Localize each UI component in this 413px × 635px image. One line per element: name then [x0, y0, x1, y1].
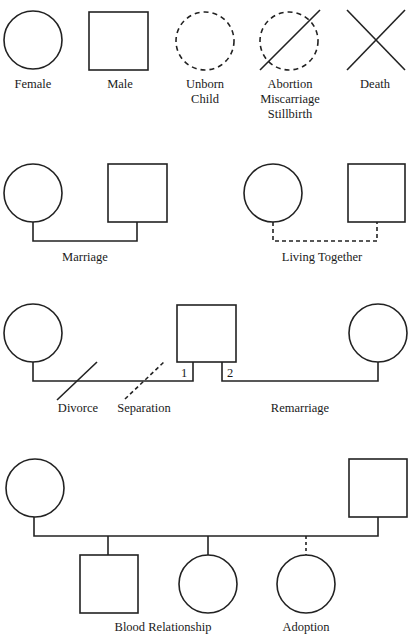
- abortion-line-2: Miscarriage: [260, 92, 320, 107]
- death-label: Death: [360, 77, 390, 92]
- divorce-label: Divorce: [58, 401, 98, 416]
- children-diagram: [6, 459, 407, 613]
- blood-relationship-label: Blood Relationship: [115, 620, 212, 635]
- separation-slash: [125, 361, 165, 399]
- male-symbol: [89, 12, 148, 70]
- female-symbol: [4, 11, 62, 69]
- male-label: Male: [107, 77, 133, 92]
- abortion-symbol: [260, 10, 320, 70]
- living-together-label: Living Together: [282, 250, 362, 265]
- unborn-line-1: Unborn: [186, 77, 224, 92]
- abortion-line-1: Abortion: [260, 77, 320, 92]
- unborn-child-symbol: [176, 12, 234, 70]
- marriage-number-1: 1: [181, 366, 187, 381]
- abortion-label: Abortion Miscarriage Stillbirth: [260, 77, 320, 122]
- adoption-label: Adoption: [282, 620, 329, 635]
- unborn-line-2: Child: [186, 92, 224, 107]
- marriage-diagram: [4, 164, 167, 241]
- remarriage-diagram: [4, 304, 407, 381]
- adopted-daughter: [277, 555, 335, 613]
- biological-son: [80, 555, 138, 613]
- separation-label: Separation: [117, 401, 170, 416]
- marriage-label: Marriage: [62, 250, 108, 265]
- remarriage-label: Remarriage: [271, 401, 329, 416]
- unborn-child-label: Unborn Child: [186, 77, 224, 107]
- abortion-line-3: Stillbirth: [260, 107, 320, 122]
- biological-daughter: [179, 555, 237, 613]
- living-together-diagram: [244, 164, 405, 241]
- death-symbol: [347, 10, 405, 70]
- female-label: Female: [15, 77, 52, 92]
- marriage-number-2: 2: [227, 366, 233, 381]
